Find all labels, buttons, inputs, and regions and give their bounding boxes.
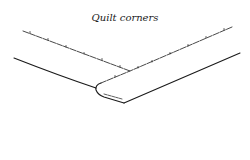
outer-edge-left <box>14 58 96 88</box>
quilt-corner-illustration <box>0 0 250 160</box>
stitched-edge-left <box>23 31 130 71</box>
folded-corner <box>96 83 124 103</box>
stitched-edge-right <box>101 27 232 83</box>
outer-edge-right <box>124 53 240 103</box>
